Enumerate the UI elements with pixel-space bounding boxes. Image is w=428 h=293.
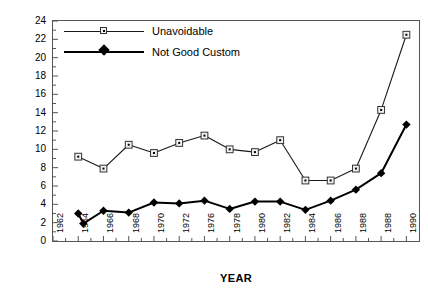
filled-diamond-marker-icon (98, 44, 109, 55)
x-tick-label: 1968 (132, 213, 141, 247)
data-point-center (229, 148, 231, 150)
x-tick-label: 1988 (384, 213, 393, 247)
y-tick-label: 18 (20, 71, 46, 81)
x-tick-label: 1990 (409, 213, 418, 247)
y-tick-label: 14 (20, 108, 46, 118)
data-point-center (355, 168, 357, 170)
x-tick-label: 1962 (56, 213, 65, 247)
data-point-center (102, 168, 104, 170)
data-point-marker (251, 197, 259, 205)
x-tick-label: 1984 (308, 213, 317, 247)
chart-legend: Unavoidable Not Good Custom (64, 22, 274, 64)
series-not-good-custom (74, 120, 411, 227)
legend-label-unavoidable: Unavoidable (152, 25, 213, 38)
x-tick-label: 1988 (359, 213, 368, 247)
data-point-marker (402, 120, 410, 128)
y-tick-label: 20 (20, 53, 46, 63)
data-point-center (279, 139, 281, 141)
x-tick-label: 1982 (283, 213, 292, 247)
x-tick-label: 1970 (157, 213, 166, 247)
y-tick-label: 16 (20, 89, 46, 99)
y-tick-label: 0 (20, 236, 46, 246)
data-point-marker (150, 198, 158, 206)
x-tick-label: 1966 (106, 213, 115, 247)
legend-label-not-good-custom: Not Good Custom (152, 46, 240, 59)
data-point-center (304, 180, 306, 182)
y-tick-label: 4 (20, 199, 46, 209)
y-tick-label: 10 (20, 144, 46, 154)
data-point-marker (225, 205, 233, 213)
data-point-center (330, 180, 332, 182)
data-point-center (178, 142, 180, 144)
data-point-center (405, 34, 407, 36)
data-point-center (153, 152, 155, 154)
x-tick-label: 1976 (207, 213, 216, 247)
legend-item-unavoidable: Unavoidable (64, 22, 274, 43)
data-point-center (203, 135, 205, 137)
data-point-center (128, 144, 130, 146)
x-tick-label: 1972 (182, 213, 191, 247)
x-axis-title: YEAR (52, 272, 420, 284)
data-point-marker (326, 196, 334, 204)
x-tick-label: 1980 (258, 213, 267, 247)
data-point-center (380, 109, 382, 111)
y-tick-label: 12 (20, 126, 46, 136)
y-tick-label: 2 (20, 218, 46, 228)
x-tick-label: 1986 (334, 213, 343, 247)
y-tick-label: 22 (20, 34, 46, 44)
x-tick-label: 1978 (233, 213, 242, 247)
data-point-center (254, 151, 256, 153)
y-tick-label: 24 (20, 16, 46, 26)
series-line (78, 125, 406, 224)
open-square-marker-icon (100, 27, 107, 34)
legend-item-not-good-custom: Not Good Custom (64, 43, 274, 64)
y-tick-label: 6 (20, 181, 46, 191)
x-tick-label: 1964 (81, 213, 90, 247)
data-point-marker (175, 199, 183, 207)
data-point-center (77, 156, 79, 158)
y-tick-label: 8 (20, 163, 46, 173)
chart-figure: PERCENTAGE 024681012141618202224 1962196… (0, 0, 428, 293)
data-point-marker (276, 197, 284, 205)
data-point-marker (200, 196, 208, 204)
